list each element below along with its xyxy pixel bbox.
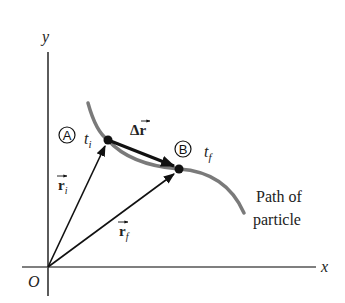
y-axis-label: y bbox=[40, 28, 50, 46]
point-b-dot bbox=[175, 165, 184, 174]
path-label-line1: Path of bbox=[256, 188, 302, 205]
final-position-label: rf bbox=[119, 223, 130, 242]
origin-label: O bbox=[28, 273, 40, 290]
displacement-diagram: y x O A ti B tf Δr ri rf Path of particl… bbox=[0, 0, 345, 303]
point-b-marker-label: B bbox=[179, 142, 188, 157]
initial-position-vector bbox=[48, 146, 105, 267]
path-label-line2: particle bbox=[253, 211, 301, 229]
point-a-time-label: ti bbox=[84, 130, 92, 150]
displacement-label: Δr bbox=[130, 122, 146, 138]
x-axis-label: x bbox=[320, 258, 328, 275]
initial-position-label: ri bbox=[58, 177, 68, 196]
particle-path bbox=[88, 103, 244, 213]
point-a-marker-label: A bbox=[63, 128, 72, 143]
point-b-time-label: tf bbox=[204, 143, 213, 163]
point-a-dot bbox=[104, 136, 113, 145]
